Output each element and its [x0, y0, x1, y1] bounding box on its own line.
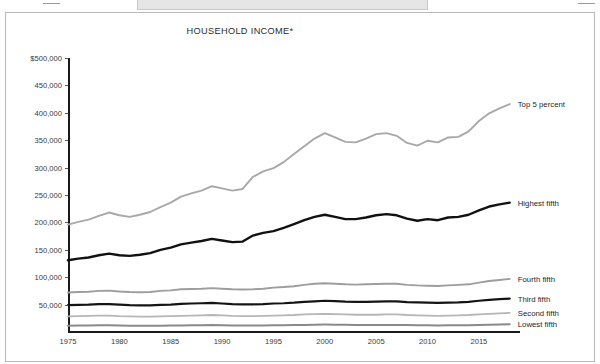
- y-tick-label: $500,000: [6, 54, 62, 63]
- page-rule-left: [43, 3, 60, 4]
- x-tick-label: 2015: [470, 337, 487, 346]
- y-tick-label: 200,000: [6, 218, 62, 227]
- series-label-lowest-fifth: Lowest fifth: [518, 320, 557, 329]
- y-tick-label: 400,000: [6, 108, 62, 117]
- series-lines: [68, 58, 520, 332]
- y-tick-mark: [65, 195, 68, 196]
- y-tick-label: 50,000: [6, 300, 62, 309]
- y-tick-mark: [65, 168, 68, 169]
- series-line: [68, 313, 510, 317]
- series-line: [68, 324, 510, 326]
- x-tick-label: 2000: [316, 337, 333, 346]
- y-tick-label: 250,000: [6, 191, 62, 200]
- series-label-second-fifth: Second fifth: [518, 308, 559, 317]
- y-tick-label: 150,000: [6, 245, 62, 254]
- x-tick-label: 1975: [60, 337, 77, 346]
- x-tick-label: 2005: [368, 337, 385, 346]
- series-line: [68, 279, 510, 293]
- y-tick-mark: [65, 222, 68, 223]
- series-line: [68, 104, 510, 225]
- y-tick-mark: [65, 58, 68, 59]
- series-label-highest-fifth: Highest fifth: [518, 198, 559, 207]
- chart-title: HOUSEHOLD INCOME*: [0, 26, 480, 36]
- y-tick-mark: [65, 277, 68, 278]
- chart-plot-area: [68, 58, 520, 332]
- y-tick-mark: [65, 305, 68, 306]
- series-label-third-fifth: Third fifth: [518, 294, 551, 303]
- x-tick-label: 1990: [214, 337, 231, 346]
- page-rule-right: [578, 3, 595, 4]
- series-label-fourth-fifth: Fourth fifth: [518, 274, 555, 283]
- y-tick-label: 300,000: [6, 163, 62, 172]
- x-tick-label: 1995: [265, 337, 282, 346]
- x-tick-label: 1980: [111, 337, 128, 346]
- y-tick-mark: [65, 85, 68, 86]
- y-tick-label: 100,000: [6, 273, 62, 282]
- series-line: [68, 203, 510, 261]
- y-tick-label: 350,000: [6, 136, 62, 145]
- figure-page: other Americans conflict with the politi…: [0, 0, 600, 364]
- x-tick-label: 2010: [419, 337, 436, 346]
- y-tick-mark: [65, 250, 68, 251]
- y-tick-label: 450,000: [6, 81, 62, 90]
- y-tick-mark: [65, 113, 68, 114]
- series-line: [68, 299, 510, 306]
- x-tick-label: 1985: [162, 337, 179, 346]
- series-label-top-5-percent: Top 5 percent: [518, 100, 565, 109]
- y-tick-mark: [65, 140, 68, 141]
- top-excerpt-callout: other Americans conflict with the politi…: [137, 0, 428, 10]
